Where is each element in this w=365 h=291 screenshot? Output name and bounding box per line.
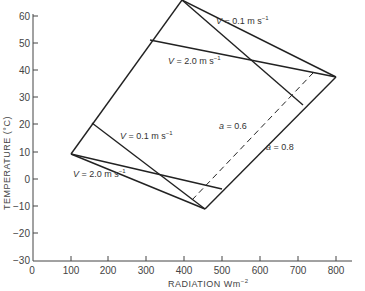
label-a-0.6: a = 0.6 [219,121,247,131]
x-tick: 100 [63,265,80,276]
line-a-0.6 [192,73,313,200]
label-a-0.8: a = 0.8 [266,142,294,152]
outer-bottom-left-edge [71,154,205,209]
y-tick-labels: 60 50 40 30 20 10 0 −10 −20 −30 [13,11,30,266]
x-tick: 800 [328,265,345,276]
x-tick: 600 [252,265,269,276]
y-tick: 20 [19,119,31,130]
x-tick: 300 [138,265,155,276]
x-tick: 200 [100,265,117,276]
y-tick: 50 [19,38,31,49]
y-axis-title: TEMPERATURE (°C) [2,116,12,210]
x-tick: 500 [214,265,231,276]
y-tick: 30 [19,92,31,103]
x-tick: 400 [176,265,193,276]
label-v-2.0-lower: V = 2.0 m s−1 [73,168,126,179]
x-tick: 700 [290,265,307,276]
y-axis [33,14,38,261]
label-v-2.0-upper: V = 2.0 m s−1 [168,55,221,66]
x-axis-title: RADIATION Wm−2 [168,278,249,289]
chart: 60 50 40 30 20 10 0 −10 −20 −30 0 100 20… [0,0,365,291]
y-tick: 40 [19,65,31,76]
y-tick: −10 [13,201,30,212]
x-tick: 0 [29,265,35,276]
y-tick: 60 [19,11,31,22]
y-tick: 10 [19,147,31,158]
y-tick: −20 [13,228,30,239]
y-tick: 0 [24,174,30,185]
label-v-0.1-upper: V = 0.1 m s−1 [216,15,269,26]
y-tick: −30 [13,255,30,266]
label-v-0.1-lower: V = 0.1 m s−1 [120,130,173,141]
x-axis [33,256,352,261]
x-tick-labels: 0 100 200 300 400 500 600 700 800 [29,265,345,276]
